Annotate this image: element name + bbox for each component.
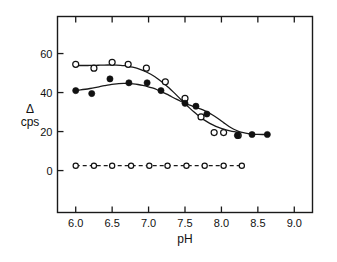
x-axis-title: pH: [177, 232, 192, 246]
series-fit-curve: [76, 65, 238, 132]
data-point-filled: [107, 76, 113, 82]
x-tick-label: 8.0: [214, 217, 229, 229]
y-tick-label: 40: [40, 87, 52, 99]
data-point-open: [198, 114, 204, 120]
chart-plot-area: 6.06.57.07.58.08.59.00204060pHΔcps: [0, 0, 337, 262]
data-point-filled: [249, 131, 255, 137]
data-point-baseline: [202, 163, 207, 168]
data-point-filled: [234, 132, 240, 138]
data-point-filled: [126, 80, 132, 86]
data-point-open: [221, 130, 227, 136]
data-point-baseline: [110, 163, 115, 168]
y-axis-title-unit: cps: [21, 115, 40, 129]
data-point-filled: [182, 100, 188, 106]
y-tick-label: 20: [40, 126, 52, 138]
data-point-filled: [158, 88, 164, 94]
data-point-baseline: [221, 163, 226, 168]
x-tick-label: 6.5: [104, 217, 119, 229]
data-point-baseline: [73, 163, 78, 168]
data-point-open: [73, 61, 79, 67]
data-point-filled: [193, 103, 199, 109]
plot-frame: [58, 17, 313, 213]
data-point-baseline: [147, 163, 152, 168]
data-point-filled: [144, 80, 150, 86]
data-point-baseline: [91, 163, 96, 168]
chart-figure: 6.06.57.07.58.08.59.00204060pHΔcps: [0, 0, 337, 262]
y-tick-label: 60: [40, 48, 52, 60]
x-tick-label: 7.5: [177, 217, 192, 229]
x-tick-label: 9.0: [287, 217, 302, 229]
data-point-baseline: [239, 163, 244, 168]
data-point-filled: [89, 90, 95, 96]
data-point-baseline: [128, 163, 133, 168]
data-point-open: [125, 61, 131, 67]
data-point-open: [143, 65, 149, 71]
data-point-open: [109, 59, 115, 65]
y-tick-label: 0: [46, 165, 52, 177]
x-tick-label: 8.5: [250, 217, 265, 229]
x-tick-label: 7.0: [141, 217, 156, 229]
x-tick-label: 6.0: [68, 217, 83, 229]
y-axis-title-symbol: Δ: [26, 102, 34, 116]
data-point-filled: [73, 88, 79, 94]
data-point-filled: [264, 131, 270, 137]
data-point-baseline: [184, 163, 189, 168]
data-point-open: [211, 130, 217, 136]
data-point-open: [162, 79, 168, 85]
data-point-baseline: [165, 163, 170, 168]
data-point-filled: [204, 111, 210, 117]
data-point-open: [91, 65, 97, 71]
